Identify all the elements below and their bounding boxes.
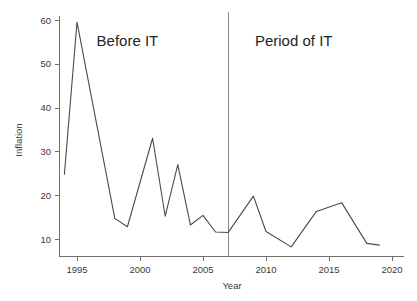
x-axis-tick-marks bbox=[78, 257, 393, 262]
y-tick-label: 60 bbox=[40, 15, 51, 26]
y-axis-tick-marks bbox=[55, 21, 60, 240]
inflation-line-chart: 102030405060 199520002005201020152020 In… bbox=[0, 0, 417, 301]
x-axis-tick-labels: 199520002005201020152020 bbox=[66, 264, 402, 275]
y-tick-label: 10 bbox=[40, 234, 51, 245]
x-axis-title: Year bbox=[222, 280, 241, 291]
y-tick-label: 50 bbox=[40, 58, 51, 69]
x-tick-label: 1995 bbox=[66, 264, 87, 275]
x-tick-label: 2010 bbox=[255, 264, 276, 275]
inflation-data-line bbox=[64, 22, 379, 247]
y-axis-tick-labels: 102030405060 bbox=[40, 15, 51, 245]
x-tick-label: 2020 bbox=[381, 264, 402, 275]
x-tick-label: 2005 bbox=[192, 264, 213, 275]
before-it-annotation: Before IT bbox=[97, 32, 159, 49]
y-tick-label: 20 bbox=[40, 190, 51, 201]
period-of-it-annotation: Period of IT bbox=[255, 32, 333, 49]
x-tick-label: 2000 bbox=[129, 264, 150, 275]
y-axis-title: Inflation bbox=[13, 123, 24, 156]
y-tick-label: 30 bbox=[40, 146, 51, 157]
y-tick-label: 40 bbox=[40, 102, 51, 113]
x-tick-label: 2015 bbox=[318, 264, 339, 275]
chart-container: 102030405060 199520002005201020152020 In… bbox=[0, 0, 417, 301]
